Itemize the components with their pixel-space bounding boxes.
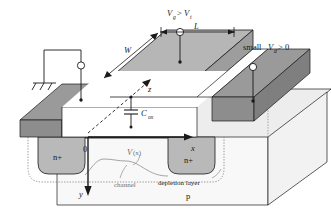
channel-width-label: W [124, 45, 132, 55]
mosfet-svg: V g > V t L W small V d > 0 C ox z x y 0 [0, 0, 331, 223]
ground-hatch-1 [32, 83, 36, 90]
origin-label: 0 [83, 144, 87, 154]
drain-voltage-rel: > 0 [278, 42, 289, 52]
cox-bottom-dot [130, 126, 133, 129]
channel-label: channel [114, 181, 136, 189]
depletion-layer-label: depletion layer [158, 179, 200, 187]
drain-voltage-sub: d [274, 48, 277, 54]
drain-oxide-top [253, 24, 268, 30]
source-contact-front [20, 120, 62, 137]
channel-length-label: L [193, 21, 199, 31]
drain-contact-front [212, 97, 254, 121]
drain-voltage-prefix: small [243, 42, 262, 52]
source-terminal-circle [77, 62, 84, 69]
axis-label-x: x [190, 143, 195, 153]
gate-voltage-sub: g [173, 14, 176, 20]
cox-c: C [141, 108, 147, 118]
potential-arg: (x) [133, 149, 142, 157]
ground-wire [44, 50, 81, 83]
potential-label: V (x) [127, 147, 142, 157]
source-contact-dot [79, 98, 82, 101]
gate-contact-dot [178, 60, 181, 63]
gate-voltage-label: V g > V t [167, 8, 192, 20]
ground-hatch-2 [40, 83, 44, 90]
cox-top-dot [130, 96, 133, 99]
gate-voltage-rel: > [177, 8, 182, 18]
cox-sub: ox [148, 114, 154, 120]
source-region-label: n+ [53, 152, 62, 162]
drain-contact-dot [251, 99, 254, 102]
axis-label-y: y [78, 189, 83, 199]
ground-hatch-3 [48, 83, 52, 90]
gate-oxide-front [62, 107, 197, 137]
gate-threshold-sub: t [190, 14, 192, 20]
drain-terminal-circle [249, 63, 256, 70]
substrate-region-label: p [186, 191, 190, 201]
mosfet-figure: V g > V t L W small V d > 0 C ox z x y 0 [0, 0, 331, 223]
drain-region-label: n+ [184, 155, 193, 165]
axis-label-z: z [147, 84, 152, 94]
